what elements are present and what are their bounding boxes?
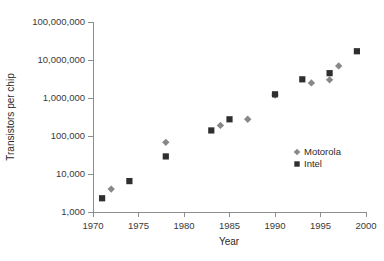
data-point-intel <box>327 70 333 76</box>
data-point-intel <box>99 195 105 201</box>
y-axis-ticks <box>88 22 93 212</box>
x-tick-label: 1975 <box>128 220 149 231</box>
x-axis-ticks <box>93 212 366 217</box>
x-tick-label: 1990 <box>264 220 285 231</box>
x-axis-group: 1970197519801985199019952000 <box>82 212 376 231</box>
data-point-layer <box>99 48 360 201</box>
chart-svg: 1,00010,000100,0001,000,00010,000,000100… <box>0 0 384 261</box>
y-tick-label: 10,000,000 <box>37 54 85 65</box>
data-point-intel <box>299 76 305 82</box>
x-axis-title: Year <box>219 236 240 247</box>
y-tick-label: 1,000,000 <box>43 92 85 103</box>
legend-marker-motorola <box>294 149 301 156</box>
y-tick-label: 1,000 <box>61 206 85 217</box>
data-point-motorola <box>308 79 315 86</box>
chart-legend: MotorolaIntel <box>294 146 342 169</box>
transistors-per-chip-chart: 1,00010,000100,0001,000,00010,000,000100… <box>0 0 384 261</box>
x-tick-label: 1980 <box>173 220 194 231</box>
data-point-motorola <box>335 62 342 69</box>
data-point-intel <box>126 178 132 184</box>
y-axis-group: 1,00010,000100,0001,000,00010,000,000100… <box>32 16 93 217</box>
x-axis-tick-labels: 1970197519801985199019952000 <box>82 220 376 231</box>
data-point-intel <box>163 153 169 159</box>
y-axis-tick-labels: 1,00010,000100,0001,000,00010,000,000100… <box>32 16 85 217</box>
data-point-intel <box>208 127 214 133</box>
data-point-intel <box>354 48 360 54</box>
x-tick-label: 1995 <box>310 220 331 231</box>
x-tick-label: 1985 <box>219 220 240 231</box>
data-point-intel <box>272 91 278 97</box>
y-axis-title: Transistors per chip <box>5 73 16 161</box>
legend-label-motorola: Motorola <box>304 146 342 157</box>
data-point-intel <box>226 116 232 122</box>
legend-marker-intel <box>294 161 299 166</box>
data-point-motorola <box>108 185 115 192</box>
y-tick-label: 100,000,000 <box>32 16 85 27</box>
data-point-motorola <box>326 76 333 83</box>
x-tick-label: 2000 <box>355 220 376 231</box>
y-tick-label: 100,000 <box>51 130 85 141</box>
y-tick-label: 10,000 <box>56 168 85 179</box>
legend-label-intel: Intel <box>304 158 322 169</box>
x-tick-label: 1970 <box>82 220 103 231</box>
data-point-motorola <box>217 122 224 129</box>
data-point-motorola <box>162 139 169 146</box>
data-point-motorola <box>244 116 251 123</box>
